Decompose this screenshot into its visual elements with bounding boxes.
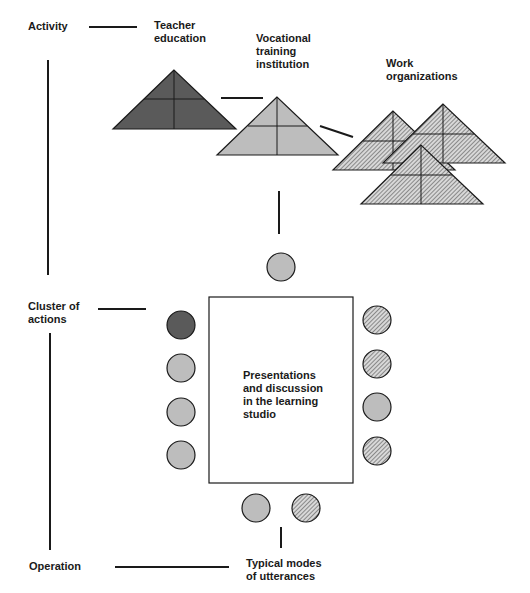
studio-line3: in the learning — [243, 395, 323, 408]
studio-line1: Presentations — [243, 369, 323, 382]
vocational-training-label: Vocational training institution — [256, 32, 311, 71]
level-operation-label: Operation — [29, 560, 81, 573]
studio-label: Presentations and discussion in the lear… — [243, 369, 323, 421]
studio-line4: studio — [243, 408, 323, 421]
vocational-line3: institution — [256, 58, 311, 71]
seat-right-2-icon — [363, 350, 391, 378]
vocational-line2: training — [256, 45, 311, 58]
studio-line2: and discussion — [243, 382, 323, 395]
work-organizations-label: Work organizations — [386, 57, 458, 83]
seat-left-1-icon — [167, 311, 195, 339]
level-activity-label: Activity — [28, 20, 68, 33]
vocational-work-connector — [320, 126, 353, 137]
teacher-education-triangle-icon — [113, 70, 236, 129]
seat-left-2-icon — [167, 354, 195, 382]
utterances-line2: of utterances — [246, 570, 322, 583]
seat-right-3-icon — [363, 393, 391, 421]
level-cluster-label: Cluster of actions — [28, 300, 79, 326]
seat-bottom-1-icon — [242, 494, 270, 522]
teacher-education-label: Teacher education — [154, 19, 206, 45]
teacher-line1: Teacher — [154, 19, 206, 32]
seat-left-4-icon — [167, 441, 195, 469]
vocational-line1: Vocational — [256, 32, 311, 45]
utterances-label: Typical modes of utterances — [246, 557, 322, 583]
vocational-training-triangle-icon — [217, 97, 338, 155]
seat-left-3-icon — [167, 398, 195, 426]
teacher-line2: education — [154, 32, 206, 45]
work-line1: Work — [386, 57, 458, 70]
level-cluster-line2: actions — [28, 313, 79, 326]
work-line2: organizations — [386, 70, 458, 83]
utterances-line1: Typical modes — [246, 557, 322, 570]
level-cluster-line1: Cluster of — [28, 300, 79, 313]
seat-top-icon — [267, 253, 295, 281]
diagram-canvas — [0, 0, 530, 593]
seat-right-4-icon — [363, 437, 391, 465]
seat-right-1-icon — [363, 306, 391, 334]
seat-bottom-2-icon — [292, 494, 320, 522]
work-organizations-triangles-icon — [333, 104, 505, 204]
